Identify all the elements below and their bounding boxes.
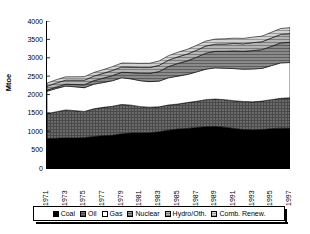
y-axis-tick-label: 3000 [19,54,43,61]
x-axis-tick-label: 1981 [135,190,142,206]
y-axis-tick-label: 1500 [19,109,43,116]
x-axis-tick-label: 1993 [248,190,255,206]
legend-swatch-icon [211,211,217,217]
plot-area [46,21,290,169]
x-axis-tick-label: 1985 [173,190,180,206]
x-axis-tick-label: 1971 [42,190,49,206]
chart-title [180,0,300,9]
y-axis-title: Mtoe [4,63,13,103]
x-axis-tick-label: 1983 [154,190,161,206]
legend-item[interactable]: Gas [102,210,123,217]
legend-item[interactable]: Comb. Renew. [211,210,265,217]
y-axis-tick-label: 3500 [19,36,43,43]
legend-label: Hydro/Oth. [173,210,207,217]
legend-swatch-icon [102,211,108,217]
y-axis-tick-label: 1000 [19,128,43,135]
x-axis-tick-label: 1977 [98,190,105,206]
legend-swatch-icon [127,211,133,217]
legend-swatch-icon [80,211,86,217]
x-axis-tick-label: 1995 [266,190,273,206]
x-axis-tick-label: 1991 [229,190,236,206]
y-axis-tick-labels: 40003500300025002000150010005000 [18,0,43,234]
chart-container: Mtoe 40003500300025002000150010005000 [0,0,310,234]
x-axis-tick-labels: 1971197319751977197919811983198519871989… [46,170,291,206]
x-axis-tick-label: 1997 [285,190,292,206]
x-axis-tick-label: 1989 [210,190,217,206]
y-axis-tick-label: 2500 [19,73,43,80]
legend-shadow-bottom [36,222,288,224]
legend-shadow-right [285,209,287,224]
y-axis-tick-label: 500 [19,146,43,153]
x-axis-tick-label: 1973 [61,190,68,206]
legend-label: Nuclear [135,210,159,217]
legend-label: Comb. Renew. [219,210,265,217]
chart-legend: CoalOilGasNuclearHydro/Oth.Comb. Renew. [33,206,285,221]
legend-item[interactable]: Hydro/Oth. [165,210,207,217]
legend-item[interactable]: Oil [80,210,97,217]
x-axis-tick-label: 1987 [192,190,199,206]
y-axis-tick-label: 4000 [19,18,43,25]
area-bands [47,28,290,168]
stacked-area-svg [47,21,290,168]
legend-label: Oil [88,210,97,217]
y-axis-tick-label: 0 [19,165,43,172]
x-axis-tick-label: 1975 [79,190,86,206]
legend-swatch-icon [165,211,171,217]
legend-label: Gas [110,210,123,217]
legend-swatch-icon [53,211,59,217]
legend-item[interactable]: Nuclear [127,210,159,217]
legend-label: Coal [61,210,75,217]
x-axis-tick-label: 1979 [117,190,124,206]
legend-item[interactable]: Coal [53,210,75,217]
y-axis-tick-label: 2000 [19,91,43,98]
